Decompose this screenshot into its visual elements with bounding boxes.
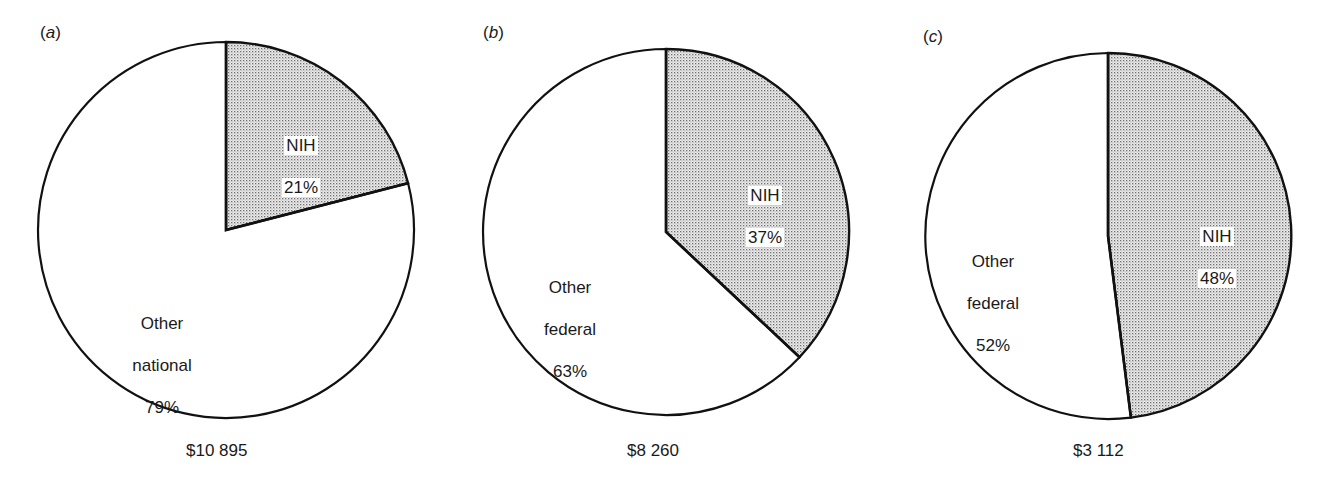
slice-label-other: Other national 79% (112, 292, 212, 418)
pie-panel-a: (a) NIH 21% Other national 79% $10 895 (0, 0, 440, 484)
slice-label-nih: NIH 48% (1182, 205, 1252, 289)
slice-label-nih: NIH 21% (266, 114, 336, 198)
slice-label-nih: NIH 37% (730, 164, 800, 248)
pie-panel-b: (b) NIH 37% Other federal 63% $8 260 (440, 0, 880, 484)
slice-label-other: Other federal 63% (520, 256, 620, 382)
slice-label-other: Other federal 52% (943, 230, 1043, 356)
pie-total-c: $3 112 (1073, 442, 1124, 459)
pie-panel-c: (c) NIH 48% Other federal 52% $3 112 (880, 0, 1320, 484)
pie-total-b: $8 260 (627, 442, 679, 459)
pie-chart-a (0, 0, 440, 484)
pie-total-a: $10 895 (186, 442, 247, 459)
pie-chart-b (440, 0, 880, 484)
